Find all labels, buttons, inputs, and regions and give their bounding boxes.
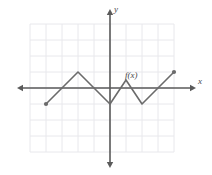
x-axis-label: x [198,76,202,86]
y-axis-label: y [114,4,118,14]
axes [17,9,196,168]
coordinate-plane-svg [0,0,212,175]
graph-figure: y x f(x) [0,0,212,175]
function-label: f(x) [125,70,138,80]
